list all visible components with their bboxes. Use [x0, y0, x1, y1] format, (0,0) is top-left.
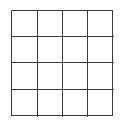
- grid-cell: [12, 37, 38, 63]
- grid-cell: [12, 11, 38, 37]
- grid-cell: [12, 90, 38, 117]
- grid-cell: [12, 63, 38, 90]
- grid-cell: [88, 37, 114, 63]
- grid-cell: [88, 11, 114, 37]
- grid-cell: [38, 63, 63, 90]
- grid-cell: [88, 90, 114, 117]
- grid-cell: [88, 63, 114, 90]
- grid-cell: [63, 11, 88, 37]
- grid-cell: [38, 90, 63, 117]
- grid-cell: [38, 37, 63, 63]
- grid-4x4: [11, 10, 113, 116]
- grid-cell: [63, 37, 88, 63]
- grid-cell: [38, 11, 63, 37]
- grid-cell: [63, 90, 88, 117]
- grid-cell: [63, 63, 88, 90]
